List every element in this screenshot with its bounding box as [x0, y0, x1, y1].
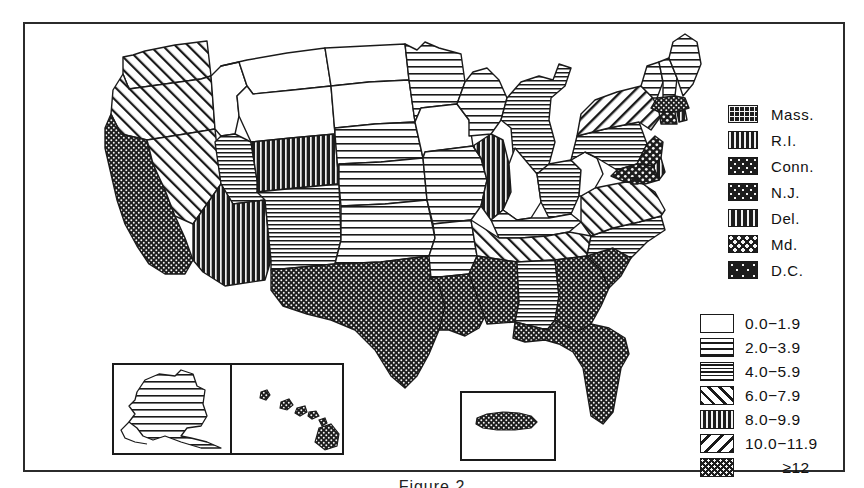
- state-legend-label-mass: Mass.: [771, 106, 814, 123]
- state-legend-row-md[interactable]: Md.: [728, 232, 814, 256]
- figure-caption: Figure 2: [0, 478, 864, 488]
- state-OR[interactable]: [111, 74, 215, 140]
- range-legend-label-4: 8.0−9.9: [745, 411, 801, 429]
- swatch-range-3: [700, 386, 734, 405]
- range-legend-row-1[interactable]: 2.0−3.9: [700, 336, 847, 359]
- swatch-range-4: [700, 410, 734, 429]
- state-KS[interactable]: [339, 158, 427, 206]
- swatch-nj: [728, 183, 758, 201]
- state-DC[interactable]: [631, 177, 638, 184]
- swatch-dc: [728, 261, 758, 279]
- state-legend-label-dc: D.C.: [771, 262, 803, 279]
- state-legend-label-ri: R.I.: [771, 132, 797, 149]
- swatch-conn: [728, 157, 758, 175]
- swatch-md: [728, 235, 758, 253]
- inset-alaska[interactable]: [113, 364, 231, 454]
- inset-puerto-rico[interactable]: [461, 392, 555, 460]
- state-CO[interactable]: [251, 134, 339, 192]
- state-legend-row-conn[interactable]: Conn.: [728, 154, 814, 178]
- state-legend-label-conn: Conn.: [771, 158, 814, 175]
- state-legend-label-md: Md.: [771, 236, 798, 253]
- swatch-range-2: [700, 362, 734, 381]
- state-MO[interactable]: [423, 146, 487, 224]
- state-OK[interactable]: [335, 200, 435, 264]
- range-legend-label-0: 0.0−1.9: [745, 315, 801, 333]
- state-legend-label-del: Del.: [771, 210, 800, 227]
- state-RI[interactable]: [677, 110, 687, 122]
- state-AR[interactable]: [429, 220, 477, 278]
- state-MA[interactable]: [651, 96, 689, 112]
- range-legend: 0.0−1.9 2.0−3.9 4.0−5.9 6.0−7.9 8.0−9.9: [700, 312, 847, 480]
- range-legend-row-4[interactable]: 8.0−9.9: [700, 408, 847, 431]
- state-AL[interactable]: [515, 260, 559, 330]
- range-legend-label-3: 6.0−7.9: [745, 387, 801, 405]
- range-legend-row-0[interactable]: 0.0−1.9: [700, 312, 847, 335]
- range-legend-label-2: 4.0−5.9: [745, 363, 801, 381]
- swatch-range-1: [700, 338, 734, 357]
- state-legend: Mass. R.I. Conn. N.J. Del. Md.: [728, 102, 814, 284]
- range-legend-label-1: 2.0−3.9: [745, 339, 801, 357]
- range-legend-row-6[interactable]: ≥12: [700, 456, 847, 479]
- swatch-mass: [728, 105, 758, 123]
- range-legend-row-3[interactable]: 6.0−7.9: [700, 384, 847, 407]
- figure-root: Mass. R.I. Conn. N.J. Del. Md.: [0, 0, 864, 488]
- state-legend-row-nj[interactable]: N.J.: [728, 180, 814, 204]
- state-OH[interactable]: [537, 160, 581, 218]
- swatch-del: [728, 209, 758, 227]
- state-legend-row-mass[interactable]: Mass.: [728, 102, 814, 126]
- state-legend-row-ri[interactable]: R.I.: [728, 128, 814, 152]
- swatch-ri: [728, 131, 758, 149]
- state-legend-row-dc[interactable]: D.C.: [728, 258, 814, 282]
- swatch-range-5: [700, 434, 734, 453]
- inset-hawaii[interactable]: [231, 364, 343, 454]
- figure-frame: Mass. R.I. Conn. N.J. Del. Md.: [23, 22, 845, 472]
- state-ND[interactable]: [325, 44, 409, 86]
- state-legend-row-del[interactable]: Del.: [728, 206, 814, 230]
- swatch-range-0: [700, 314, 734, 333]
- state-PR[interactable]: [476, 412, 537, 430]
- range-legend-label-5: 10.0−11.9: [745, 435, 818, 453]
- state-legend-label-nj: N.J.: [771, 184, 800, 201]
- swatch-range-6: [700, 458, 734, 477]
- range-legend-label-6: ≥12: [745, 459, 847, 477]
- state-CT[interactable]: [659, 112, 677, 124]
- state-WY[interactable]: [237, 86, 335, 142]
- range-legend-row-2[interactable]: 4.0−5.9: [700, 360, 847, 383]
- range-legend-row-5[interactable]: 10.0−11.9: [700, 432, 847, 455]
